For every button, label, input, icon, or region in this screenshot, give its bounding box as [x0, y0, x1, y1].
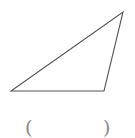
answer-blank[interactable] — [36, 118, 100, 136]
triangle — [11, 12, 123, 91]
answer-left-paren: ( — [25, 116, 32, 138]
answer-right-paren: ) — [103, 116, 110, 138]
